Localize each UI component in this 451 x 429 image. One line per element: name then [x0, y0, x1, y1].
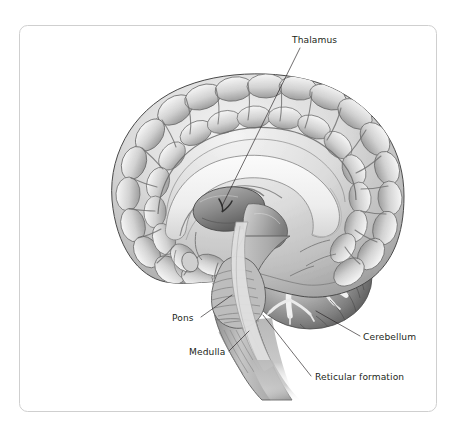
label-reticular-formation: Reticular formation — [315, 372, 404, 382]
label-thalamus: Thalamus — [291, 35, 337, 45]
label-medulla: Medulla — [189, 347, 225, 357]
label-pons: Pons — [172, 313, 194, 323]
brain-diagram-canvas: Thalamus Pons Medulla Cerebellum Reticul… — [0, 0, 451, 429]
brain-anatomy-figure: Thalamus Pons Medulla Cerebellum Reticul… — [0, 0, 451, 429]
label-cerebellum: Cerebellum — [363, 332, 416, 342]
